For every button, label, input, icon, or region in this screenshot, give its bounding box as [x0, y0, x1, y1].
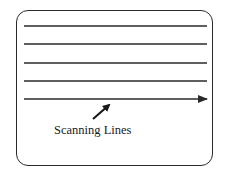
caption-label: Scanning Lines — [54, 123, 131, 138]
scanning-lines-graphic — [0, 0, 225, 178]
pointer-arrow-icon — [93, 105, 109, 119]
